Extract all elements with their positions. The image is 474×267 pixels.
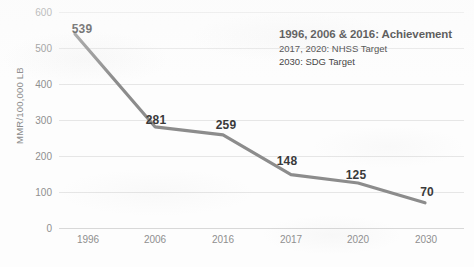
point-label-2016: 259: [216, 118, 236, 132]
point-label-2017: 148: [277, 154, 297, 168]
point-label-2030: 70: [420, 185, 434, 199]
annotation-line-nhss: 2017, 2020: NHSS Target: [279, 43, 452, 56]
annotation-line-sdg: 2030: SDG Target: [279, 56, 452, 69]
chart-annotation: 1996, 2006 & 2016: Achievement 2017, 202…: [279, 28, 452, 68]
point-label-1996: 539: [72, 22, 92, 36]
line-chart: MMR/100,000 LB 600 500 400 300 200 100 0…: [0, 0, 474, 267]
point-label-2006: 281: [146, 113, 166, 127]
point-label-2020: 125: [346, 168, 366, 182]
annotation-heading: 1996, 2006 & 2016: Achievement: [279, 28, 452, 40]
